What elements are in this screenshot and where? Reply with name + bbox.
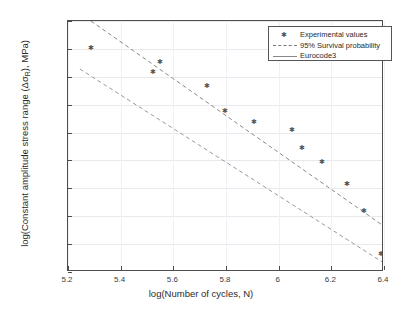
x-tick-label: 5.4: [114, 275, 125, 284]
scatter-point: ✱: [299, 145, 304, 150]
asterisk-marker-icon: ✱: [281, 31, 287, 39]
legend-key-dashed-line-icon: [272, 40, 298, 50]
y-axis-tick-labels: 1.851.91.9522.052.12.152.22.252.3: [0, 0, 63, 317]
x-tick-label: 6: [275, 275, 279, 284]
scatter-point: ✱: [222, 108, 227, 113]
legend-key-marker-icon: ✱: [272, 30, 298, 40]
x-tick-label: 5.8: [219, 275, 230, 284]
x-tick-label: 6.2: [325, 275, 336, 284]
scatter-point: ✱: [157, 59, 162, 64]
scatter-point: ✱: [289, 127, 294, 132]
scatter-point: ✱: [88, 45, 93, 50]
x-tick-mark: [384, 266, 385, 270]
figure-root: ✱✱✱✱✱✱✱✱✱✱✱✱ 1.851.91.9522.052.12.152.22…: [0, 0, 402, 317]
scatter-point: ✱: [204, 83, 209, 88]
legend-label-eurocode3: Eurocode3: [298, 51, 336, 60]
y-tick-mark: [68, 272, 72, 273]
x-axis-label: log(Number of cycles, N): [0, 288, 402, 299]
legend-item-survival-probability: 95% Survival probability: [269, 40, 391, 50]
legend-label-experimental-values: Experimental values: [298, 30, 368, 39]
scatter-point: ✱: [361, 208, 366, 213]
legend-key-solid-line-icon: [272, 51, 298, 61]
y-axis-label-suffix: ), MPa): [19, 40, 30, 71]
y-axis-label: log(Constant amplitude stress range (ΔσR…: [19, 13, 32, 273]
scatter-point: ✱: [150, 69, 155, 74]
scatter-point: ✱: [251, 119, 256, 124]
legend-label-survival-probability: 95% Survival probability: [298, 41, 380, 50]
solid-line-swatch-icon: [273, 56, 297, 57]
scatter-point: ✱: [378, 251, 382, 256]
y-axis-label-subscript: R: [24, 71, 31, 76]
legend-item-eurocode3: Eurocode3: [269, 51, 391, 61]
x-tick-label: 6.4: [377, 275, 388, 284]
x-axis-tick-labels: 5.25.45.65.866.26.4: [0, 274, 402, 288]
legend-item-experimental-values: ✱ Experimental values: [269, 30, 391, 40]
y-axis-label-prefix: log(Constant amplitude stress range (Δσ: [19, 76, 30, 247]
legend-box: ✱ Experimental values 95% Survival proba…: [268, 26, 392, 61]
x-tick-label: 5.6: [167, 275, 178, 284]
x-tick-label: 5.2: [61, 275, 72, 284]
dashed-line-swatch-icon: [273, 45, 297, 46]
scatter-point: ✱: [344, 181, 349, 186]
scatter-point: ✱: [319, 159, 324, 164]
